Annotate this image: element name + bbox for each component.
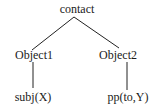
node-subj-x: subj(X) <box>15 90 52 104</box>
edge-contact-object1 <box>32 17 74 50</box>
node-pp-to-y: pp(to,Y) <box>108 90 149 104</box>
node-object2: Object2 <box>99 48 137 62</box>
node-contact: contact <box>60 2 95 16</box>
edge-contact-object2 <box>74 17 119 48</box>
node-object1: Object1 <box>15 48 53 62</box>
